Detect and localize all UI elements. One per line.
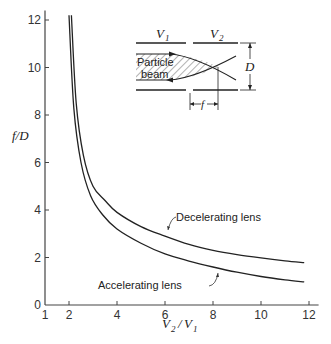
x-tick-label: 2: [66, 308, 73, 322]
x-tick-label: 8: [210, 308, 217, 322]
svg-text:1: 1: [193, 324, 198, 334]
focal-length-chart: 124681012024681012 f/D V 2 / V 1 Deceler…: [0, 0, 331, 344]
x-tick-label: 12: [302, 308, 316, 322]
svg-text:Particle: Particle: [137, 56, 174, 68]
y-tick-label: 0: [34, 298, 41, 312]
svg-text:f: f: [201, 98, 206, 110]
y-tick-label: 12: [28, 13, 42, 27]
decelerating-annotation: Decelerating lens: [167, 211, 261, 230]
x-tick-label: 1: [42, 308, 49, 322]
inset-lens-diagram: V 1 V 2 Particle beam D f: [136, 26, 256, 110]
svg-text:Decelerating lens: Decelerating lens: [176, 211, 261, 223]
curves: [69, 15, 304, 282]
accelerating-lens-curve: [69, 15, 304, 282]
x-tick-label: 4: [114, 308, 121, 322]
svg-text:beam: beam: [141, 68, 169, 80]
y-axis-label: f/D: [12, 128, 29, 143]
y-tick-label: 10: [28, 61, 42, 75]
decelerating-lens-curve: [71, 15, 304, 262]
svg-text:2: 2: [171, 324, 176, 334]
x-axis-label: V 2 / V 1: [162, 316, 198, 334]
x-tick-label: 10: [254, 308, 268, 322]
svg-text:Accelerating lens: Accelerating lens: [98, 279, 182, 291]
y-tick-label: 4: [34, 203, 41, 217]
y-tick-label: 8: [34, 108, 41, 122]
accelerating-annotation: Accelerating lens: [98, 273, 219, 291]
y-tick-label: 6: [34, 156, 41, 170]
svg-text:1: 1: [165, 33, 170, 43]
svg-text:/: /: [177, 316, 183, 331]
svg-text:D: D: [244, 59, 255, 74]
svg-text:2: 2: [219, 33, 224, 43]
y-tick-label: 2: [34, 251, 41, 265]
